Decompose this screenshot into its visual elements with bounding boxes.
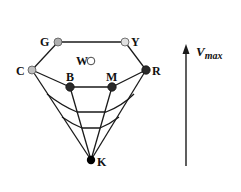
vertex-cyan: [28, 66, 36, 74]
vertex-blue: [66, 83, 74, 91]
contour-level-2: [62, 117, 119, 128]
vmax-label: Vmax: [196, 44, 222, 61]
label-Y: Y: [131, 35, 140, 49]
label-W: W: [76, 54, 88, 68]
vertex-red: [142, 66, 150, 74]
vertex-magenta: [108, 83, 116, 91]
label-M: M: [106, 70, 117, 84]
vmax-label-subscript: max: [205, 50, 223, 61]
vertices: [28, 38, 150, 164]
vertex-yellow: [121, 38, 129, 46]
vertex-black: [87, 156, 95, 164]
contour-level-1: [47, 94, 134, 112]
vertex-green: [54, 38, 62, 46]
cone-edges: [32, 70, 146, 160]
label-K: K: [97, 155, 107, 169]
label-G: G: [40, 35, 49, 49]
vmax-axis: Vmax: [183, 44, 223, 166]
vertex-labels: G Y C R B M W K: [16, 35, 161, 169]
hexcone-diagram: G Y C R B M W K Vmax: [0, 0, 241, 192]
label-R: R: [152, 64, 161, 78]
label-B: B: [66, 70, 74, 84]
vertex-white: [87, 57, 95, 65]
label-C: C: [16, 64, 25, 78]
arrow-up-icon: [183, 44, 190, 54]
